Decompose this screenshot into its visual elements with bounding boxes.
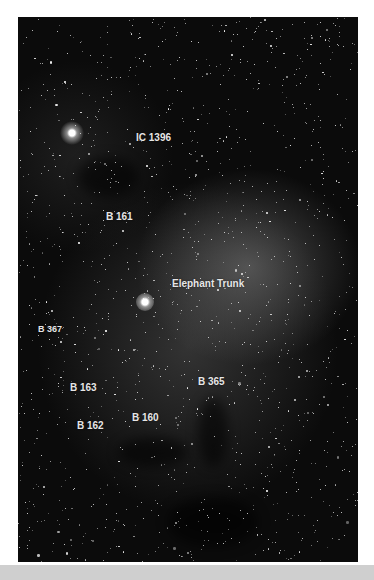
star — [305, 297, 306, 298]
star — [293, 472, 294, 473]
star — [346, 99, 347, 100]
star — [144, 191, 145, 192]
star — [64, 195, 65, 196]
star — [324, 195, 325, 196]
star — [168, 474, 169, 475]
star — [74, 203, 75, 204]
star — [91, 506, 92, 507]
star — [268, 398, 269, 399]
star — [206, 161, 207, 162]
star — [91, 203, 92, 204]
star — [239, 21, 241, 23]
star — [92, 540, 94, 542]
star — [54, 374, 55, 375]
star — [243, 192, 244, 193]
star — [197, 119, 199, 121]
star — [319, 89, 320, 90]
star — [243, 46, 244, 47]
star — [229, 404, 230, 405]
star — [297, 272, 298, 273]
star — [248, 318, 249, 319]
star — [80, 224, 81, 225]
star — [165, 369, 166, 370]
star — [166, 273, 167, 274]
star — [317, 520, 318, 521]
star — [244, 342, 245, 343]
star — [32, 202, 33, 203]
star — [242, 344, 243, 345]
star — [184, 194, 185, 195]
star — [67, 53, 68, 54]
star — [137, 468, 138, 469]
star — [263, 284, 264, 285]
star — [38, 486, 40, 488]
star — [35, 195, 37, 197]
star — [145, 332, 146, 333]
star — [136, 253, 137, 254]
star — [225, 342, 226, 343]
star — [288, 350, 289, 351]
star — [103, 494, 104, 495]
star — [288, 255, 290, 257]
star — [42, 389, 43, 390]
star — [100, 37, 101, 38]
star — [225, 25, 227, 27]
star — [323, 178, 324, 179]
star — [223, 262, 224, 263]
star — [68, 519, 69, 520]
star — [274, 389, 275, 390]
star — [125, 421, 126, 422]
star — [279, 402, 280, 403]
star — [246, 488, 247, 489]
star — [304, 515, 305, 516]
star — [177, 304, 178, 305]
star — [252, 330, 254, 332]
star — [191, 141, 193, 143]
star — [158, 290, 159, 291]
star — [301, 362, 302, 363]
star — [239, 385, 240, 386]
star — [21, 349, 22, 350]
star — [275, 542, 276, 543]
star — [334, 239, 335, 240]
star — [184, 374, 185, 375]
star — [276, 38, 277, 39]
star — [294, 113, 295, 114]
star — [108, 107, 109, 108]
star — [323, 501, 324, 502]
star — [282, 85, 283, 86]
star — [48, 170, 49, 171]
star — [345, 383, 347, 385]
star — [73, 37, 75, 39]
star — [252, 186, 253, 187]
star — [275, 428, 276, 429]
star — [81, 203, 82, 204]
star — [82, 51, 83, 52]
star — [335, 125, 336, 126]
star — [261, 473, 262, 474]
label-elephant-trunk: Elephant Trunk — [172, 278, 244, 289]
star — [57, 424, 58, 425]
star — [330, 59, 331, 60]
star — [165, 122, 166, 123]
star — [194, 467, 195, 468]
star — [34, 443, 35, 444]
star — [172, 103, 173, 104]
star — [28, 88, 29, 89]
star — [307, 412, 309, 414]
star — [174, 525, 175, 526]
star — [212, 25, 213, 26]
star — [334, 313, 335, 314]
star — [258, 83, 260, 85]
star — [135, 399, 136, 400]
star — [133, 147, 134, 148]
star — [260, 379, 261, 380]
star — [202, 414, 203, 415]
star — [345, 417, 346, 418]
star — [317, 541, 318, 542]
star — [54, 95, 55, 96]
star — [19, 272, 20, 273]
star — [284, 171, 285, 172]
star — [236, 129, 237, 130]
star — [148, 107, 149, 108]
